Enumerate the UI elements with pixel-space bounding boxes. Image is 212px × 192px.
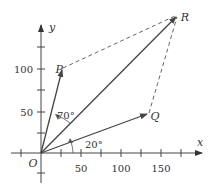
- parallelogram-edges: [63, 16, 177, 113]
- vector-diagram: 50 100 150 x 50 100 y O 70°: [0, 0, 212, 192]
- point-label-P: P: [55, 63, 64, 76]
- x-axis: 50 100 150 x: [11, 136, 204, 174]
- x-tick-label-150: 150: [151, 163, 170, 174]
- vectors: [41, 17, 176, 153]
- x-tick-label-50: 50: [75, 163, 88, 174]
- origin-label: O: [28, 157, 37, 170]
- angle-arc-20: [71, 142, 73, 153]
- point-label-R: R: [180, 11, 189, 24]
- dashed-edge-PR: [63, 16, 175, 68]
- vector-OR: [41, 17, 176, 153]
- angle-label-20: 20°: [85, 139, 103, 150]
- y-tick-label-100: 100: [14, 64, 33, 75]
- point-label-Q: Q: [150, 110, 159, 123]
- y-tick-label-50: 50: [20, 107, 33, 118]
- y-axis-label: y: [48, 21, 56, 34]
- angle-label-70: 70°: [57, 110, 75, 121]
- x-axis-label: x: [197, 136, 204, 149]
- dashed-edge-QR: [149, 17, 177, 113]
- x-tick-label-100: 100: [111, 163, 130, 174]
- angle-arc-20-arrow: [68, 138, 73, 143]
